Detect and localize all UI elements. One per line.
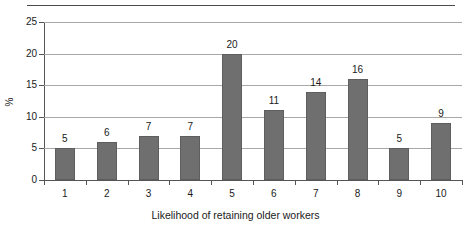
y-axis-tick-label: 25 [11,17,37,27]
x-axis-tick-label: 8 [342,188,374,199]
bar-value-label: 5 [49,134,81,144]
bar-value-label: 20 [216,40,248,50]
x-axis-tick-label: 2 [91,188,123,199]
gridline [44,117,462,118]
x-axis-tick-label: 3 [133,188,165,199]
x-axis-tick-label: 6 [258,188,290,199]
bar [55,148,75,180]
bar-value-label: 11 [258,96,290,106]
x-axis-tick-label: 4 [174,188,206,199]
bar [306,92,326,180]
y-axis-tick [39,148,44,149]
y-axis-tick-label: 0 [11,175,37,185]
x-axis-tick-label: 1 [49,188,81,199]
y-axis-title: % [5,90,15,114]
x-axis-tick [169,180,170,185]
x-axis-tick [295,180,296,185]
y-axis-tick-label: 5 [11,143,37,153]
bar-value-label: 7 [174,122,206,132]
y-axis-labels: 0510152025 [7,0,37,232]
gridline [44,54,462,55]
y-axis-tick [39,22,44,23]
top-divider-rule [27,5,455,6]
x-axis-tick [253,180,254,185]
x-axis-tick [86,180,87,185]
gridline [44,22,462,23]
bar-chart: 0510152025 % Likelihood of retaining old… [0,0,471,232]
x-axis-tick-label: 10 [425,188,457,199]
bar-value-label: 6 [91,128,123,138]
bar-value-label: 9 [425,109,457,119]
x-axis-tick [462,180,463,185]
bar [180,136,200,180]
bar-value-label: 5 [383,134,415,144]
y-axis-tick [39,85,44,86]
y-axis-tick-label: 15 [11,80,37,90]
bar-value-label: 14 [300,78,332,88]
bar [222,54,242,180]
y-axis-tick [39,117,44,118]
y-axis-tick-label: 20 [11,49,37,59]
bar [389,148,409,180]
bar-value-label: 7 [133,122,165,132]
x-axis-tick-label: 9 [383,188,415,199]
x-axis-tick [420,180,421,185]
x-axis-tick-label: 7 [300,188,332,199]
x-axis-tick [44,180,45,185]
bar [139,136,159,180]
gridline [44,85,462,86]
x-axis-tick [211,180,212,185]
plot-area [44,22,462,180]
y-axis-tick [39,54,44,55]
bar [348,79,368,180]
x-axis-tick [128,180,129,185]
bar [264,110,284,180]
x-axis-tick [337,180,338,185]
x-axis-tick [378,180,379,185]
bar-value-label: 16 [342,65,374,75]
bar [431,123,451,180]
x-axis-tick-label: 5 [216,188,248,199]
bar [97,142,117,180]
x-axis-title: Likelihood of retaining older workers [0,209,471,221]
